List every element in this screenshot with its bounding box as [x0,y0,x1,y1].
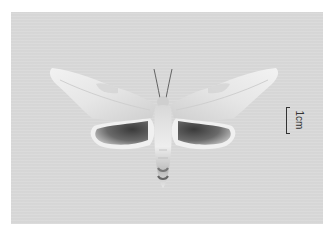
right-forewing [170,68,278,120]
moth-body [154,96,171,188]
scale-bar [286,107,290,134]
left-hindwing [91,118,155,149]
scale-bar-label: 1cm [293,110,305,130]
right-hindwing [172,118,236,149]
antennae [154,69,172,98]
left-forewing [50,68,156,120]
moth-specimen [0,0,328,230]
